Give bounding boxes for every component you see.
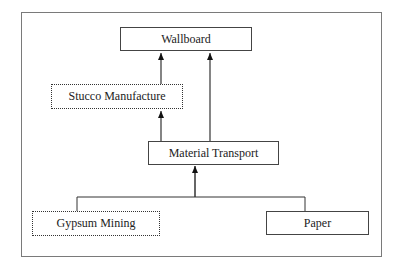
node-label: Paper	[304, 216, 331, 231]
node-wallboard: Wallboard	[120, 27, 252, 51]
arrowhead-icon	[158, 111, 164, 118]
node-label: Stucco Manufacture	[69, 89, 166, 104]
node-material-transport: Material Transport	[148, 141, 279, 165]
node-stucco-manufacture: Stucco Manufacture	[51, 84, 183, 109]
node-gypsum-mining: Gypsum Mining	[32, 211, 160, 236]
node-label: Wallboard	[161, 32, 211, 47]
arrowhead-icon	[207, 53, 213, 60]
node-paper: Paper	[266, 211, 369, 235]
arrowhead-icon	[158, 53, 164, 60]
arrowhead-icon	[192, 166, 198, 173]
node-label: Material Transport	[169, 146, 259, 161]
node-label: Gypsum Mining	[56, 216, 135, 231]
